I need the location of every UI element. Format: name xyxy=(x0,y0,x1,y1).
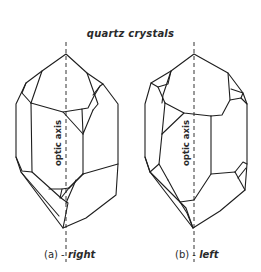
crystals-drawing xyxy=(0,0,261,272)
optic-axis-label-a: optic axis xyxy=(53,120,63,166)
caption-a-word: right xyxy=(68,249,95,260)
caption-b: (b) - left xyxy=(175,249,218,260)
optic-axis-label-b: optic axis xyxy=(181,120,191,166)
caption-b-prefix: (b) - xyxy=(175,249,199,260)
crystal-a-right xyxy=(16,42,118,262)
crystal-b-left xyxy=(145,42,247,262)
caption-a: (a) - right xyxy=(44,249,95,260)
caption-a-prefix: (a) - xyxy=(44,249,68,260)
caption-b-word: left xyxy=(199,249,218,260)
